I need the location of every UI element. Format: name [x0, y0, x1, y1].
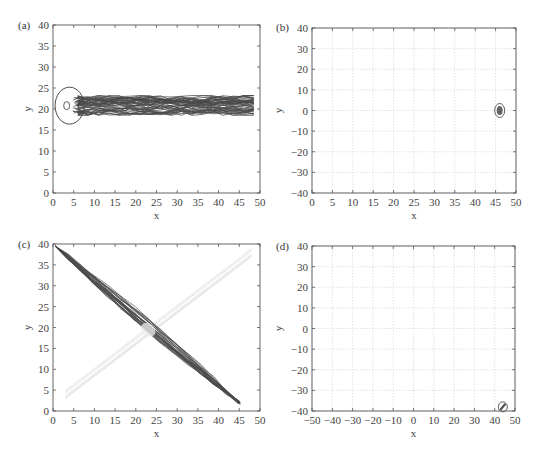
y-tick-label: 10 — [297, 302, 309, 314]
y-tick-label: 35 — [38, 40, 50, 52]
x-tick-label: 10 — [89, 414, 101, 426]
y-axis-label: y — [21, 324, 33, 330]
x-axis-label: x — [154, 427, 160, 439]
x-tick-label: 5 — [71, 414, 77, 426]
panel-b: 05101520253035404550−40−30−20−1001020304… — [272, 21, 522, 221]
x-tick-label: 45 — [234, 196, 246, 208]
x-tick-label: 45 — [234, 414, 246, 426]
y-tick-label: 0 — [44, 187, 50, 199]
y-tick-label: 20 — [297, 63, 309, 75]
panel-label: (c) — [18, 238, 31, 251]
y-tick-label: −10 — [291, 125, 309, 137]
y-axis-label: y — [272, 325, 284, 331]
x-tick-label: 45 — [490, 196, 502, 208]
y-tick-label: 15 — [38, 342, 50, 354]
x-tick-label: 50 — [511, 196, 523, 208]
x-tick-label: 15 — [110, 414, 122, 426]
x-tick-label: 20 — [388, 196, 400, 208]
y-tick-label: 40 — [38, 238, 50, 250]
y-tick-label: 15 — [38, 124, 50, 136]
y-tick-label: 40 — [297, 240, 309, 252]
x-tick-label: 5 — [71, 196, 77, 208]
y-axis-label: y — [272, 107, 284, 113]
x-tick-label: 0 — [309, 196, 315, 208]
x-tick-label: 10 — [428, 414, 440, 426]
y-tick-label: 25 — [38, 301, 50, 313]
y-tick-label: −40 — [291, 187, 309, 199]
grid-lines — [312, 246, 515, 411]
x-tick-label: 50 — [255, 196, 267, 208]
x-tick-label: 10 — [347, 196, 359, 208]
x-tick-label: 35 — [192, 414, 204, 426]
y-tick-label: 30 — [297, 43, 309, 55]
y-tick-label: 10 — [38, 363, 50, 375]
y-tick-label: −30 — [291, 384, 309, 396]
data-series — [55, 246, 252, 404]
y-tick-label: −20 — [291, 146, 309, 158]
x-tick-label: −10 — [385, 414, 403, 426]
panel-label: (a) — [18, 19, 31, 32]
y-tick-label: 20 — [297, 281, 309, 293]
y-tick-label: 10 — [38, 145, 50, 157]
data-series — [498, 402, 507, 412]
y-tick-label: 5 — [44, 384, 50, 396]
y-tick-label: 40 — [297, 22, 309, 34]
x-tick-label: 15 — [110, 196, 122, 208]
y-tick-label: 30 — [38, 280, 50, 292]
x-tick-label: 20 — [130, 414, 142, 426]
x-tick-label: −40 — [324, 414, 342, 426]
x-tick-label: 0 — [411, 414, 417, 426]
x-tick-label: 30 — [172, 196, 184, 208]
y-tick-label: 0 — [303, 105, 309, 117]
x-tick-label: 20 — [449, 414, 461, 426]
x-tick-label: 35 — [192, 196, 204, 208]
x-tick-label: 40 — [213, 414, 225, 426]
panel-label: (d) — [276, 240, 289, 253]
x-axis-label: x — [411, 209, 417, 221]
panel-c: 051015202530354045500510152025303540xy(c… — [18, 238, 266, 439]
data-series — [55, 87, 254, 124]
x-tick-label: 30 — [469, 414, 481, 426]
y-tick-label: 10 — [297, 84, 309, 96]
y-tick-label: −10 — [291, 343, 309, 355]
x-tick-label: 25 — [151, 196, 163, 208]
x-tick-label: 35 — [449, 196, 461, 208]
x-tick-label: −20 — [364, 414, 382, 426]
x-axis-label: x — [154, 209, 160, 221]
x-tick-label: 10 — [89, 196, 101, 208]
x-tick-label: 25 — [151, 414, 163, 426]
x-axis-label: x — [411, 427, 417, 439]
figure: 051015202530354045500510152025303540xy(a… — [0, 0, 545, 458]
y-tick-label: 20 — [38, 103, 50, 115]
x-tick-label: 40 — [213, 196, 225, 208]
panel-d: −50−40−30−20−1001020304050−40−30−20−1001… — [272, 240, 521, 439]
x-tick-label: 30 — [429, 196, 441, 208]
x-tick-label: 40 — [470, 196, 482, 208]
x-tick-label: 0 — [50, 196, 56, 208]
x-tick-label: 50 — [510, 414, 522, 426]
y-axis-label: y — [21, 106, 33, 112]
y-tick-label: −20 — [291, 364, 309, 376]
x-tick-label: 50 — [255, 414, 267, 426]
y-tick-label: 30 — [38, 61, 50, 73]
tick-labels: 05101520253035404550−40−30−20−1001020304… — [291, 22, 522, 208]
tick-labels: −50−40−30−20−1001020304050−40−30−20−1001… — [291, 240, 521, 426]
x-tick-label: 0 — [50, 414, 56, 426]
x-tick-label: 25 — [409, 196, 421, 208]
y-tick-label: 35 — [38, 259, 50, 271]
grid-lines — [312, 28, 516, 193]
y-tick-label: 40 — [38, 19, 50, 31]
x-tick-label: 40 — [489, 414, 501, 426]
panel-a: 051015202530354045500510152025303540xy(a… — [18, 19, 266, 221]
y-tick-label: −30 — [291, 166, 309, 178]
y-tick-label: 20 — [38, 322, 50, 334]
x-tick-label: 30 — [172, 414, 184, 426]
y-tick-label: 30 — [297, 261, 309, 273]
y-tick-label: 0 — [44, 405, 50, 417]
y-tick-label: 5 — [44, 166, 50, 178]
x-tick-label: 20 — [130, 196, 142, 208]
x-tick-label: −30 — [344, 414, 362, 426]
y-tick-label: 25 — [38, 82, 50, 94]
panel-label: (b) — [276, 21, 289, 34]
y-tick-label: −40 — [291, 405, 309, 417]
